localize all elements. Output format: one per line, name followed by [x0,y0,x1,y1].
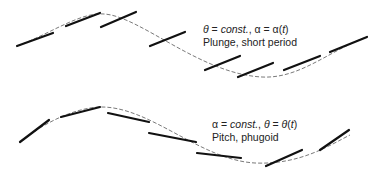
wing-chord-segment [320,130,349,150]
wing-chord-segment [330,37,367,52]
wing-chord-segment [149,133,196,142]
wing-chord-segment [61,107,100,117]
wing-chord-segment [197,153,241,158]
phugoid-description: Pitch, phugoid [212,131,297,144]
wing-chord-segment [17,33,53,46]
diagram-svg [0,0,383,177]
plunge-equation: θ = const., α = α(t) [203,23,297,36]
wing-chord-segment [238,63,273,77]
wing-chord-segment [101,12,136,27]
motion-modes-diagram: θ = const., α = α(t) Plunge, short perio… [0,0,383,177]
wing-chord-segment [20,120,49,142]
wing-chord-segment [150,32,185,46]
phugoid-caption: α = const., θ = θ(t) Pitch, phugoid [212,118,297,144]
phugoid-equation: α = const., θ = θ(t) [212,118,297,131]
wing-chord-segment [205,56,240,70]
wing-chord-segment [66,13,100,26]
plunge-trajectory-path [17,14,367,77]
plunge-description: Plunge, short period [203,36,297,49]
plunge-caption: θ = const., α = α(t) Plunge, short perio… [203,23,297,49]
